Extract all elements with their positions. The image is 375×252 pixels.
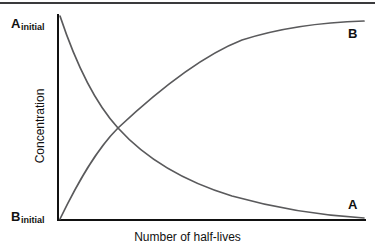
figure-container: Ainitial Binitial B A Number of half-liv… bbox=[0, 0, 375, 252]
y-axis-title: Concentration bbox=[32, 0, 48, 252]
curve-a-decay bbox=[60, 16, 364, 218]
label-b-initial-symbol: B bbox=[11, 209, 21, 224]
label-curve-a: A bbox=[348, 198, 357, 211]
label-curve-b: B bbox=[348, 27, 357, 40]
label-a-initial-symbol: A bbox=[11, 16, 21, 31]
y-axis-title-text: Concentration bbox=[34, 89, 46, 164]
x-axis-title: Number of half-lives bbox=[0, 231, 375, 243]
plot-area bbox=[0, 0, 375, 252]
